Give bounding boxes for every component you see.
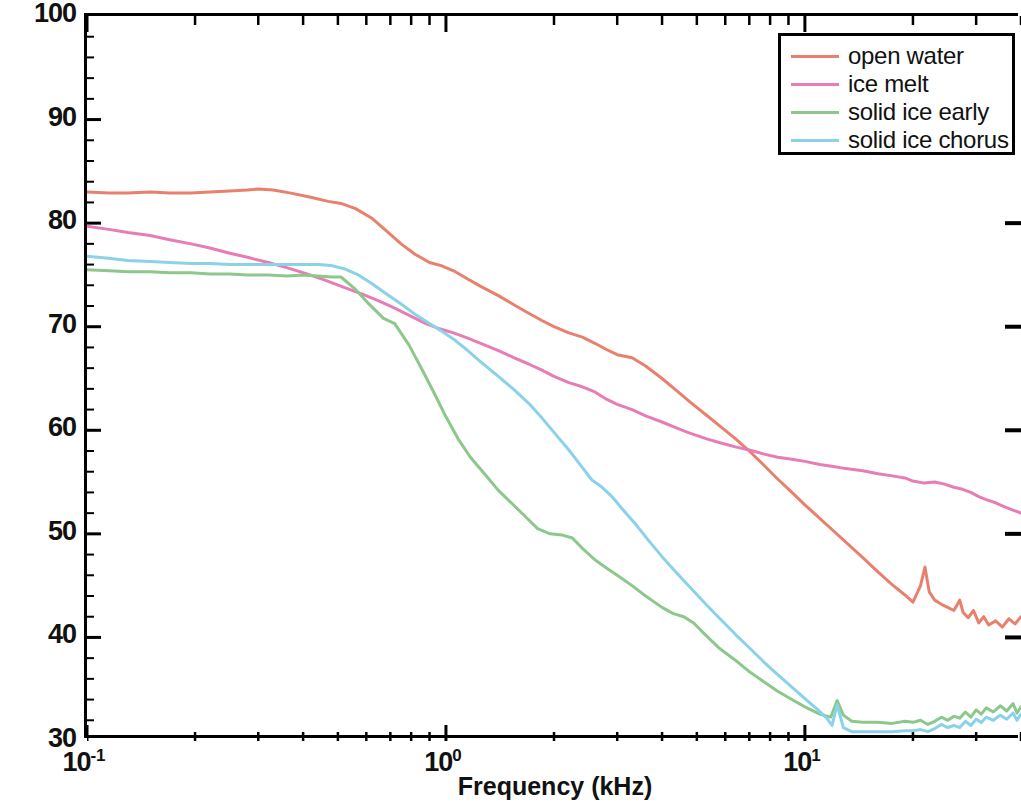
series-line-ice-melt — [87, 226, 1021, 513]
legend-swatch-icon — [791, 139, 839, 142]
x-tick-label: 100 — [424, 746, 462, 778]
legend-label: open water — [848, 44, 964, 68]
legend-swatch-icon — [791, 83, 839, 86]
chart-legend: open waterice meltsolid ice earlysolid i… — [778, 33, 1015, 155]
legend-item-solid-ice-early[interactable]: solid ice early — [781, 98, 1012, 126]
data-series-group — [87, 189, 1021, 732]
legend-swatch-icon — [791, 55, 839, 58]
x-axis-title: Frequency (kHz) — [458, 772, 652, 801]
y-tick-label: 40 — [0, 619, 76, 650]
legend-item-open-water[interactable]: open water — [781, 42, 1012, 70]
y-tick-label: 100 — [0, 0, 76, 29]
series-line-solid-ice-early — [87, 270, 1021, 725]
x-tick-label: 101 — [783, 746, 821, 778]
legend-item-ice-melt[interactable]: ice melt — [781, 70, 1012, 98]
y-tick-label: 90 — [0, 101, 76, 132]
legend-label: solid ice chorus — [848, 128, 1009, 152]
series-line-open-water — [87, 189, 1021, 627]
y-tick-label: 50 — [0, 515, 76, 546]
legend-label: ice melt — [848, 72, 928, 96]
x-axis-title-text: Frequency (kHz) — [458, 772, 652, 800]
legend-item-solid-ice-chorus[interactable]: solid ice chorus — [781, 126, 1012, 154]
y-tick-label: 80 — [0, 205, 76, 236]
y-tick-label: 70 — [0, 308, 76, 339]
y-tick-label: 60 — [0, 412, 76, 443]
x-tick-label: 10-1 — [62, 746, 105, 778]
legend-label: solid ice early — [848, 100, 989, 124]
legend-swatch-icon — [791, 111, 839, 114]
